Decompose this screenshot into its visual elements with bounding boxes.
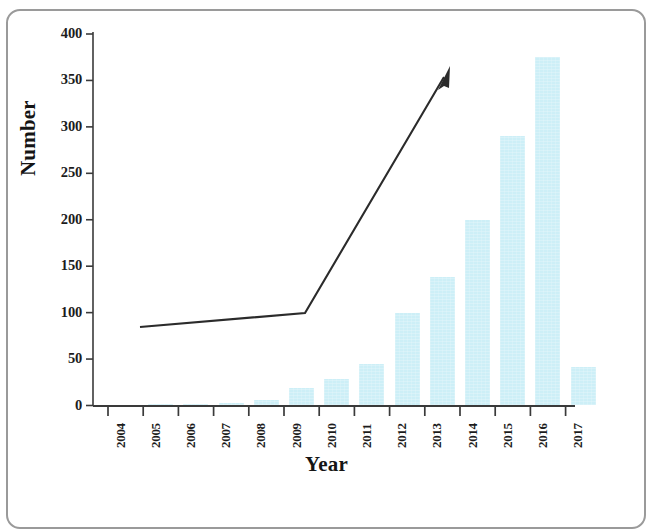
axis-lines xyxy=(93,32,575,406)
x-tick-marks xyxy=(108,406,566,416)
trend-arrow-icon xyxy=(140,66,450,327)
y-tick-marks xyxy=(86,34,93,406)
